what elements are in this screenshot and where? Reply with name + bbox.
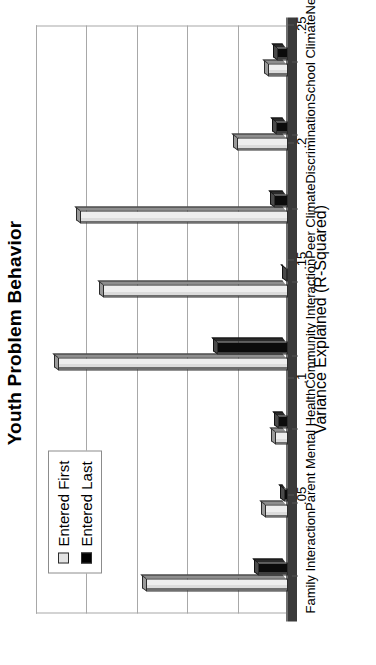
bar-top-cap	[274, 411, 278, 427]
bar-group	[36, 246, 288, 320]
category-axis-tick	[292, 428, 298, 429]
category-axis-tick	[292, 134, 298, 135]
bar-top-cap	[254, 558, 258, 574]
category-axis-tick	[292, 502, 298, 503]
bar	[80, 210, 288, 223]
bar-face	[265, 504, 288, 517]
bar	[258, 562, 288, 575]
bar-face	[277, 47, 288, 60]
bar-top-cap	[261, 501, 265, 517]
legend: Entered FirstEntered Last	[48, 450, 102, 573]
bar	[237, 137, 288, 150]
category-axis-tick	[292, 355, 298, 356]
category-axis-tick	[292, 61, 298, 62]
category-label: School Climate	[292, 14, 328, 101]
bar-top-cap	[272, 117, 276, 133]
bar-top-cap	[99, 280, 103, 296]
bar	[103, 284, 288, 297]
bar-face	[274, 194, 288, 207]
bar-top-cap	[142, 574, 146, 590]
black-square-icon	[81, 552, 92, 563]
bar-top-cap	[233, 133, 237, 149]
bar	[276, 121, 288, 134]
bar-top-cap	[213, 338, 217, 354]
legend-item[interactable]: Entered Last	[78, 460, 95, 563]
category-label: Discrimination	[292, 101, 328, 183]
bar	[265, 504, 288, 517]
bar-face	[275, 431, 288, 444]
bar	[277, 47, 288, 60]
category-label: Neighborhood Quality	[292, 0, 328, 14]
page-title: Youth Problem Behavior	[4, 0, 26, 665]
bar-face	[217, 341, 288, 354]
bar-top-cap	[271, 427, 275, 443]
category-label: Family Interaction	[292, 510, 328, 613]
legend-item-label: Entered First	[55, 460, 72, 546]
bar-side-face	[212, 337, 286, 341]
bar-face	[276, 121, 288, 134]
bar-group	[36, 99, 288, 173]
bar-group	[36, 319, 288, 393]
bar-top-cap	[270, 191, 274, 207]
bar-group	[36, 25, 288, 99]
bar-top-cap	[264, 60, 268, 76]
bar-top-cap	[282, 264, 286, 280]
bar-face	[237, 137, 288, 150]
bar-face	[258, 562, 288, 575]
bar	[275, 431, 288, 444]
bar	[274, 194, 288, 207]
legend-item[interactable]: Entered First	[55, 460, 72, 563]
bar-face	[268, 63, 288, 76]
category-label: Community Interaction	[292, 258, 328, 388]
bar-top-cap	[54, 354, 58, 370]
rotated-chart-container: Youth Problem Behavior .05.1.15.2.25 Var…	[0, 0, 376, 665]
bar-top-cap	[280, 485, 284, 501]
bar-face	[58, 357, 288, 370]
category-label: Peer Climate	[292, 183, 328, 258]
bar-face	[80, 210, 288, 223]
bar-top-cap	[76, 207, 80, 223]
bar	[146, 578, 288, 591]
bar-top-cap	[273, 44, 277, 60]
light-gray-square-icon	[58, 552, 69, 563]
bar	[217, 341, 288, 354]
bar-side-face	[97, 280, 286, 284]
chart-figure: Youth Problem Behavior .05.1.15.2.25 Var…	[0, 0, 376, 665]
category-axis-tick	[292, 281, 298, 282]
legend-item-label: Entered Last	[78, 461, 95, 546]
bar-face	[103, 284, 288, 297]
bar	[268, 63, 288, 76]
bar	[58, 357, 288, 370]
bar-face	[278, 415, 288, 428]
bar	[278, 415, 288, 428]
bar-face	[146, 578, 288, 591]
category-label: Parent Mental Health	[292, 388, 328, 510]
bar-group	[36, 172, 288, 246]
category-axis-tick	[292, 208, 298, 209]
category-axis-labels: Family InteractionParent Mental HealthCo…	[292, 25, 328, 613]
category-axis-tick	[292, 575, 298, 576]
bar-side-face	[75, 206, 286, 210]
